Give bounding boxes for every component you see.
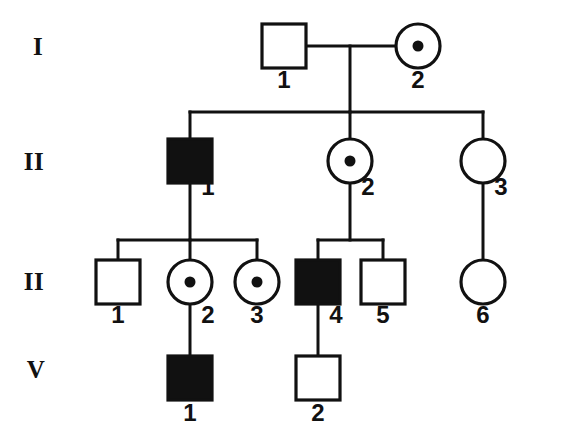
individual-iii-3-number-label: 3 bbox=[250, 301, 263, 328]
individual-iv-2-male-unaffected[interactable] bbox=[296, 356, 340, 400]
individual-iii-2-number-label: 2 bbox=[201, 301, 214, 328]
individual-ii-1-number-label: 1 bbox=[201, 173, 214, 200]
generation-labels-layer: IIIIIV bbox=[24, 33, 46, 383]
individual-iii-5-male-unaffected[interactable] bbox=[361, 260, 405, 304]
individual-i-1-male-unaffected[interactable] bbox=[262, 24, 306, 68]
pedigree-chart: 1212312345612 IIIIIV bbox=[0, 0, 561, 437]
pedigree-canvas: 1212312345612 IIIIIV bbox=[0, 0, 561, 437]
connection-lines-layer bbox=[118, 46, 483, 356]
individual-ii-3-number-label: 3 bbox=[494, 173, 507, 200]
individual-i-2-number-label: 2 bbox=[411, 66, 424, 93]
individual-iii-1-number-label: 1 bbox=[111, 301, 124, 328]
individual-iv-1-male-affected[interactable] bbox=[168, 356, 212, 400]
individual-iv-1-number-label: 1 bbox=[183, 399, 196, 426]
individual-iv-2-number-label: 2 bbox=[311, 399, 324, 426]
individual-ii-2-number-label: 2 bbox=[361, 173, 374, 200]
individual-iii-1-male-unaffected[interactable] bbox=[96, 260, 140, 304]
individual-iii-4-male-affected[interactable] bbox=[296, 260, 340, 304]
individual-ii-2-carrier-dot-icon bbox=[345, 156, 356, 167]
individual-symbols-layer bbox=[96, 24, 505, 400]
generation-label-2: II bbox=[24, 148, 44, 175]
individual-iii-6-female-unaffected[interactable] bbox=[461, 260, 505, 304]
individual-iii-5-number-label: 5 bbox=[376, 301, 389, 328]
individual-iii-4-number-label: 4 bbox=[329, 301, 343, 328]
individual-i-1-number-label: 1 bbox=[277, 66, 290, 93]
individual-iii-2-carrier-dot-icon bbox=[185, 277, 196, 288]
generation-label-3: II bbox=[24, 268, 44, 295]
individual-i-2-carrier-dot-icon bbox=[413, 41, 424, 52]
generation-label-4: V bbox=[27, 356, 46, 383]
generation-label-1: I bbox=[33, 33, 43, 60]
individual-iii-6-number-label: 6 bbox=[476, 301, 489, 328]
individual-iii-3-carrier-dot-icon bbox=[252, 277, 263, 288]
